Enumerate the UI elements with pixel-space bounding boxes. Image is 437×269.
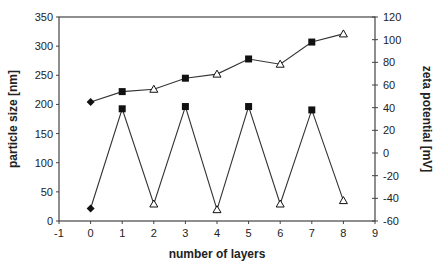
- y2-tick-label: 60: [383, 79, 395, 91]
- x-tick-label: 8: [340, 227, 346, 239]
- triangle-marker: [213, 206, 221, 213]
- y2-tick-label: 40: [383, 102, 395, 114]
- y-tick-label: 100: [35, 157, 53, 169]
- y-axis-left: 050100150200250300350: [35, 11, 59, 227]
- x-tick-label: 7: [309, 227, 315, 239]
- y2-tick-label: 20: [383, 124, 395, 136]
- y-tick-label: 200: [35, 98, 53, 110]
- square-marker: [245, 103, 252, 110]
- x-axis: -10123456789: [54, 221, 378, 239]
- y-tick-label: 150: [35, 128, 53, 140]
- series-zeta-potential: [87, 103, 348, 213]
- triangle-marker: [339, 30, 347, 37]
- square-marker: [245, 55, 252, 62]
- square-marker: [308, 39, 315, 46]
- x-tick-label: -1: [54, 227, 64, 239]
- y-tick-label: 300: [35, 40, 53, 52]
- x-tick-label: 9: [372, 227, 378, 239]
- x-tick-label: 5: [246, 227, 252, 239]
- y-axis-right-title: zeta potential [mV]: [420, 66, 434, 173]
- y2-tick-label: 100: [383, 34, 401, 46]
- y2-tick-label: -60: [383, 215, 399, 227]
- plot-border: [59, 17, 375, 221]
- y-tick-label: 0: [47, 215, 53, 227]
- diamond-marker: [87, 205, 95, 213]
- series-particle-size: [87, 30, 348, 106]
- y-tick-label: 250: [35, 69, 53, 81]
- y2-tick-label: 0: [383, 147, 389, 159]
- square-marker: [119, 105, 126, 112]
- x-axis-title: number of layers: [169, 247, 266, 261]
- x-tick-label: 2: [151, 227, 157, 239]
- plot-area: [59, 17, 375, 221]
- x-tick-label: 0: [88, 227, 94, 239]
- square-marker: [182, 75, 189, 82]
- diamond-marker: [87, 98, 95, 106]
- triangle-marker: [276, 200, 284, 207]
- y-tick-label: 50: [41, 186, 53, 198]
- triangle-marker: [150, 200, 158, 207]
- square-marker: [119, 88, 126, 95]
- series-line: [91, 107, 344, 210]
- x-tick-label: 4: [214, 227, 220, 239]
- x-tick-label: 6: [277, 227, 283, 239]
- y-axis-right: -60-40-20020406080100120: [372, 11, 401, 227]
- triangle-marker: [339, 197, 347, 204]
- y-axis-left-title: particle size [nm]: [6, 70, 20, 168]
- triangle-marker: [213, 70, 221, 77]
- x-tick-label: 3: [182, 227, 188, 239]
- square-marker: [182, 103, 189, 110]
- y2-tick-label: 120: [383, 11, 401, 23]
- y2-tick-label: -20: [383, 170, 399, 182]
- chart: -10123456789 050100150200250300350 -60-4…: [0, 0, 437, 269]
- x-tick-label: 1: [119, 227, 125, 239]
- y2-tick-label: -40: [383, 192, 399, 204]
- series-line: [91, 34, 344, 102]
- square-marker: [308, 106, 315, 113]
- series-layer: [87, 30, 348, 213]
- y-tick-label: 350: [35, 11, 53, 23]
- y2-tick-label: 80: [383, 56, 395, 68]
